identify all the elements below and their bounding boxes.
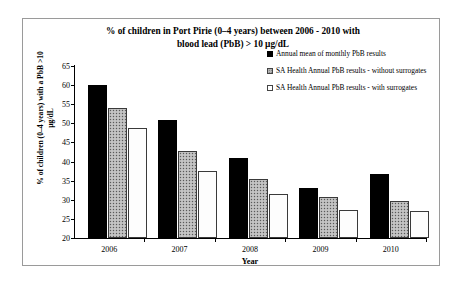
bar <box>158 120 177 238</box>
x-axis-label: Year <box>74 257 426 266</box>
legend-label: Annual mean of monthly PbB results <box>276 49 386 58</box>
y-tick-label: 55 <box>62 100 70 109</box>
x-tick-label: 2008 <box>242 245 258 254</box>
legend-label: SA Health Annual PbB results - with surr… <box>276 83 417 92</box>
y-tick-label: 40 <box>62 157 70 166</box>
bar <box>410 211 429 238</box>
y-tick-mark <box>71 66 75 67</box>
legend-label: SA Health Annual PbB results - without s… <box>276 66 426 75</box>
legend-swatch-icon <box>267 68 273 74</box>
y-tick-label: 30 <box>62 195 70 204</box>
y-tick-label: 25 <box>62 214 70 223</box>
bar <box>249 179 268 238</box>
y-tick-label: 20 <box>62 234 70 243</box>
y-tick-mark <box>71 85 75 86</box>
x-tick-label: 2007 <box>172 245 188 254</box>
y-tick-mark <box>71 200 75 201</box>
legend-item: SA Health Annual PbB results - without s… <box>267 66 427 75</box>
bar <box>370 174 389 238</box>
x-tick-label: 2009 <box>312 245 328 254</box>
x-tick-label: 2006 <box>101 245 117 254</box>
legend-item: Annual mean of monthly PbB results <box>267 49 427 58</box>
y-tick-mark <box>71 238 75 239</box>
x-tick-mark <box>144 238 145 242</box>
y-tick-label: 65 <box>62 62 70 71</box>
y-tick-label: 45 <box>62 138 70 147</box>
y-tick-label: 50 <box>62 119 70 128</box>
x-tick-mark <box>426 238 427 242</box>
x-axis-line <box>74 238 426 239</box>
y-tick-mark <box>71 104 75 105</box>
bar-group <box>158 66 218 238</box>
bar <box>108 108 127 238</box>
chart-legend: Annual mean of monthly PbB resultsSA Hea… <box>267 49 427 100</box>
legend-item: SA Health Annual PbB results - with surr… <box>267 83 427 92</box>
legend-swatch-icon <box>267 85 273 91</box>
y-tick-label: 60 <box>62 81 70 90</box>
y-tick-mark <box>71 219 75 220</box>
y-tick-mark <box>71 142 75 143</box>
bar <box>128 128 147 238</box>
y-tick-label: 35 <box>62 176 70 185</box>
x-tick-label: 2010 <box>383 245 399 254</box>
bar <box>88 85 107 238</box>
chart-frame: % of children in Port Pirie (0–4 years) … <box>22 18 440 266</box>
chart-title-line-2: blood lead (PbB) > 10 µg/dL <box>177 39 289 49</box>
y-axis-label-line-2: µg/dL <box>46 108 56 128</box>
bar-group <box>88 66 148 238</box>
bar <box>269 194 288 238</box>
bar <box>319 197 338 238</box>
bar <box>178 151 197 238</box>
bar <box>198 171 217 238</box>
y-tick-mark <box>71 162 75 163</box>
y-tick-mark <box>71 181 75 182</box>
bar <box>390 201 409 238</box>
chart-title-line-1: % of children in Port Pirie (0–4 years) … <box>106 26 360 36</box>
bar <box>339 210 358 238</box>
y-axis-label-line-1: % of children (0–4 years) with a PbB >10 <box>36 51 46 185</box>
x-tick-mark <box>215 238 216 242</box>
chart-title: % of children in Port Pirie (0–4 years) … <box>63 25 403 51</box>
bar <box>299 188 318 238</box>
x-tick-mark <box>285 238 286 242</box>
y-tick-mark <box>71 123 75 124</box>
legend-swatch-icon <box>267 51 273 57</box>
x-tick-mark <box>356 238 357 242</box>
bar <box>229 158 248 238</box>
y-axis-label: % of children (0–4 years) with a PbB >10… <box>33 43 59 193</box>
y-axis-line <box>74 65 75 239</box>
